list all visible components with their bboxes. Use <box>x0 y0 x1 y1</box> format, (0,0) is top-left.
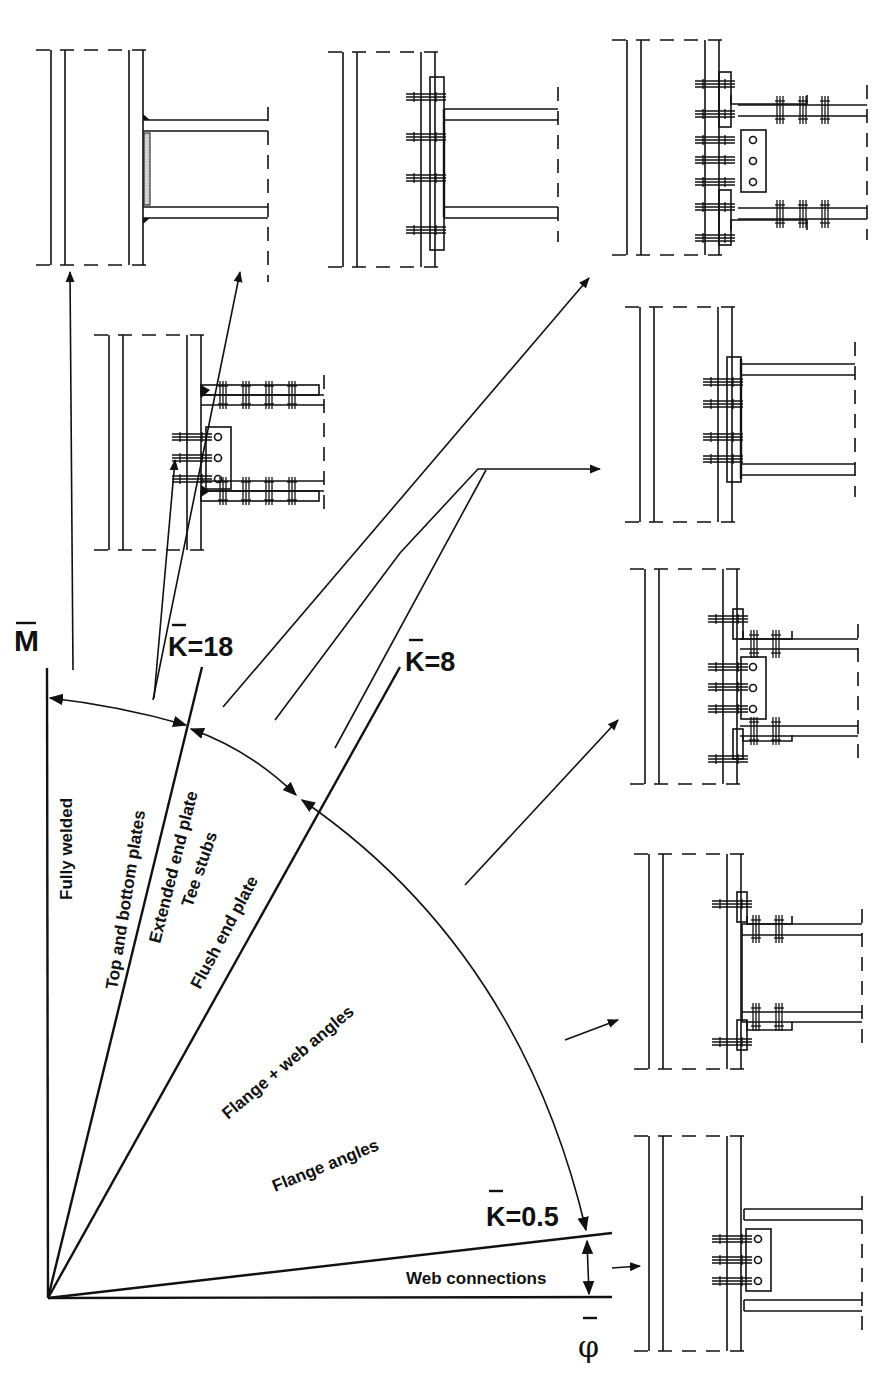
k8-label: K=8 <box>405 647 455 677</box>
boundary-k8 <box>48 667 400 1298</box>
k05-label: K=0.5 <box>486 1202 559 1232</box>
boundary-k05 <box>48 1233 612 1298</box>
x-axis-label: φ <box>578 1329 599 1364</box>
detail-flange-angles <box>634 854 862 1069</box>
detail-tee-stubs <box>612 40 867 255</box>
y-axis-label: M <box>14 624 39 657</box>
zone-flange-angles: Flange angles <box>269 1136 381 1196</box>
k18-label: K=18 <box>168 632 233 662</box>
x-axis <box>48 1297 612 1298</box>
pointer-arrows <box>70 272 640 1268</box>
zone-top-bottom-plates: Top and bottom plates <box>102 809 149 991</box>
detail-top-bottom-plates <box>94 335 324 550</box>
arrow-to-fully-welded <box>70 272 73 670</box>
detail-extended-end-plate <box>328 52 558 267</box>
joint-classification-diagram: M φ K=18 K=8 K=0.5 Fully welded Top and … <box>0 0 891 1382</box>
arrow-to-web-connections <box>612 1266 640 1268</box>
arc-zone-rigid <box>50 698 186 725</box>
arrow-to-top-bottom-plates <box>154 460 175 698</box>
arrow-to-flange-web-angles <box>465 720 618 885</box>
moment-rotation-chart: M φ K=18 K=8 K=0.5 Fully welded Top and … <box>14 623 612 1364</box>
arrow-to-tee-stubs-top <box>223 278 589 707</box>
detail-flange-web-angles <box>630 569 858 784</box>
detail-fully-welded <box>36 50 268 282</box>
y-axis <box>47 668 48 1298</box>
arc-zone-k18-k8 <box>191 729 296 795</box>
zone-fully-welded: Fully welded <box>57 798 76 900</box>
boundary-k18 <box>48 667 202 1298</box>
detail-web-connections <box>634 1136 862 1351</box>
detail-flush-end-plate <box>625 307 855 522</box>
arrow-to-flange-angles <box>565 1020 618 1040</box>
zone-flange-web-angles: Flange + web angles <box>218 1002 357 1123</box>
zone-web-connections: Web connections <box>406 1269 546 1288</box>
arc-zone-pinned <box>587 1241 589 1294</box>
